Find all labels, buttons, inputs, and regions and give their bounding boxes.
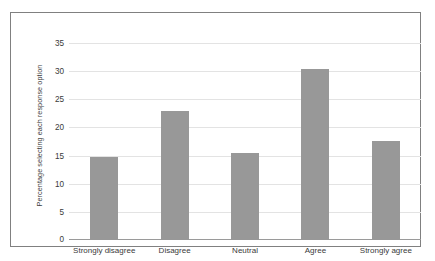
figure-border: Percentage selecting each response optio… bbox=[10, 12, 421, 247]
bar-slot-disagree: Disagree bbox=[139, 43, 209, 240]
y-tick-label-0: 0 bbox=[59, 235, 64, 244]
y-tick-label-25: 25 bbox=[55, 95, 64, 104]
bar-slot-strongly-agree: Strongly agree bbox=[351, 43, 421, 240]
bar-strongly-disagree[interactable] bbox=[90, 157, 118, 240]
y-axis-title: Percentage selecting each response optio… bbox=[35, 51, 44, 221]
bar-slot-strongly-disagree: Strongly disagree bbox=[69, 43, 139, 240]
x-tick-label-strongly-disagree: Strongly disagree bbox=[73, 246, 135, 255]
y-tick-label-10: 10 bbox=[55, 179, 64, 188]
y-tick-label-30: 30 bbox=[55, 67, 64, 76]
y-tick-label-15: 15 bbox=[55, 151, 64, 160]
y-tick-label-5: 5 bbox=[59, 207, 64, 216]
x-tick-label-strongly-agree: Strongly agree bbox=[360, 246, 412, 255]
bar-neutral[interactable] bbox=[231, 153, 259, 240]
bar-slot-neutral: Neutral bbox=[210, 43, 280, 240]
bar-slot-agree: Agree bbox=[280, 43, 350, 240]
bar-group: Strongly disagree Disagree Neutral Agree… bbox=[69, 43, 421, 240]
x-tick-label-disagree: Disagree bbox=[159, 246, 191, 255]
plot-area: 35 30 25 20 15 10 5 0 bbox=[69, 43, 421, 240]
y-tick-label-35: 35 bbox=[55, 39, 64, 48]
y-tick-label-20: 20 bbox=[55, 123, 64, 132]
bar-disagree[interactable] bbox=[161, 111, 189, 240]
bar-strongly-agree[interactable] bbox=[372, 141, 400, 240]
bar-agree[interactable] bbox=[301, 69, 329, 240]
x-tick-label-agree: Agree bbox=[305, 246, 326, 255]
figure: Percentage selecting each response optio… bbox=[0, 0, 435, 261]
x-tick-label-neutral: Neutral bbox=[232, 246, 258, 255]
